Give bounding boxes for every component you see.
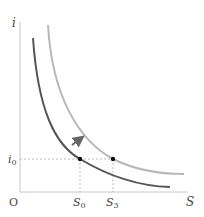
chart: i S O i0 S0 S3 (0, 0, 204, 217)
s0-label: S0 (73, 196, 86, 210)
y-axis-label: i (12, 16, 16, 30)
point-s3 (111, 157, 115, 161)
shift-arrow-icon (72, 139, 80, 145)
s3-label: S3 (106, 196, 119, 210)
origin-label: O (9, 196, 18, 209)
point-s0 (78, 157, 82, 161)
initial-curve (33, 38, 170, 187)
x-axis-label: S (186, 195, 194, 209)
i0-label: i0 (8, 153, 17, 167)
